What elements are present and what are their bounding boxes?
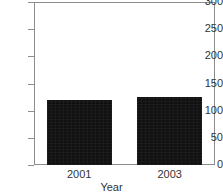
bar (47, 100, 112, 165)
y-axis-tick (28, 84, 34, 85)
x-axis-tick-label: 2001 (49, 168, 109, 180)
y-axis-tick (28, 138, 34, 139)
y-axis-tick-label: 150 (197, 78, 223, 89)
y-axis-tick (28, 111, 34, 112)
bar-chart: 050100150200250300 20012003 Year (0, 0, 223, 196)
y-axis-tick-label: 250 (197, 23, 223, 34)
y-axis-tick (28, 2, 34, 3)
x-axis-title: Year (0, 181, 223, 193)
x-axis-tick-label: 2003 (140, 168, 200, 180)
y-axis-tick-label: 200 (197, 50, 223, 61)
y-axis-tick-label: 300 (197, 0, 223, 7)
y-axis-tick (28, 165, 34, 166)
y-axis-tick (28, 56, 34, 57)
bar (137, 97, 202, 165)
y-axis-tick (28, 29, 34, 30)
